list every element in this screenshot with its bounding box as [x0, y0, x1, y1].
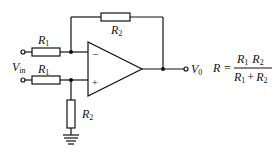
resistor-r1-top [32, 48, 60, 56]
ground-icon [63, 135, 79, 144]
label-r1-bottom: R1 [37, 62, 49, 77]
inverting-sign: − [92, 48, 98, 60]
resistor-r2-feedback [101, 13, 130, 21]
resistor-r1-bottom [32, 76, 60, 84]
label-v0: V0 [191, 62, 202, 77]
label-r2-feedback: R2 [110, 23, 122, 38]
noninverting-sign: + [92, 77, 98, 88]
label-r2-ground: R2 [81, 107, 93, 122]
equation-lhs: R = [212, 61, 231, 75]
equation-denominator: R1+R2 [233, 70, 267, 85]
input-terminal-bottom [21, 78, 25, 82]
equation-numerator: R1R2 [236, 52, 264, 67]
output-terminal [184, 67, 188, 71]
circuit-diagram: − + R1 R1 R2 R2 Vin V0 R = R1R2 R1+R2 [0, 0, 279, 163]
label-r1-top: R1 [37, 33, 49, 48]
label-vin: Vin [12, 60, 26, 75]
junction-output [161, 67, 165, 71]
resistor-r2-ground [67, 100, 75, 128]
input-terminal-top [21, 50, 25, 54]
resistance-equation: R = R1R2 R1+R2 [212, 52, 272, 85]
